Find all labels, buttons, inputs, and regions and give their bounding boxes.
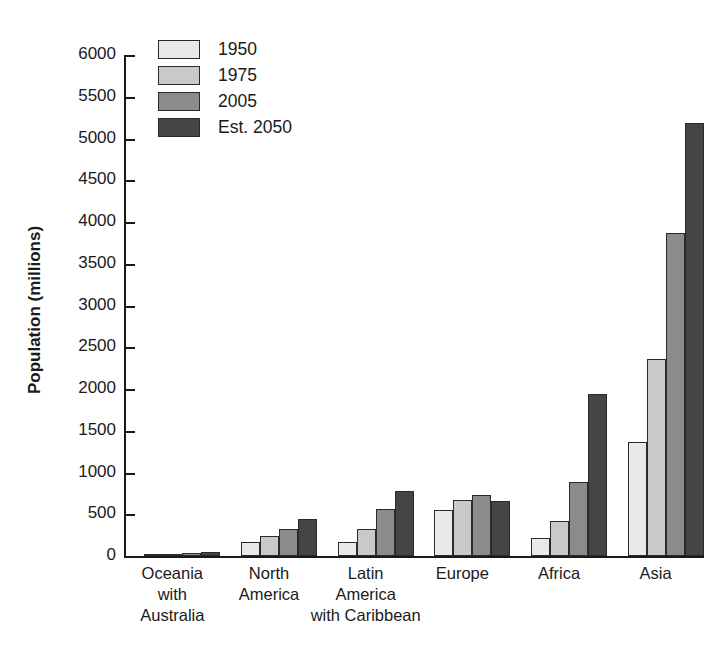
y-tick-mark <box>126 347 135 349</box>
y-tick-mark <box>126 264 135 266</box>
bar <box>395 491 414 556</box>
bar <box>647 359 666 556</box>
x-category-label-line: Australia <box>104 605 241 626</box>
bar-group <box>531 55 607 556</box>
y-tick-label: 0 <box>46 545 116 565</box>
legend-swatch <box>158 118 200 137</box>
bar <box>666 233 685 556</box>
y-tick-mark <box>126 180 135 182</box>
legend-label: 1975 <box>218 65 257 86</box>
legend-item: 1975 <box>158 62 292 88</box>
legend: 195019752005Est. 2050 <box>158 36 292 140</box>
legend-label: 2005 <box>218 91 257 112</box>
bar <box>182 553 201 556</box>
bar <box>531 538 550 556</box>
y-tick-label: 1500 <box>46 420 116 440</box>
x-category-label-line: with Caribbean <box>297 605 434 626</box>
y-tick-mark <box>126 556 135 558</box>
bar <box>241 542 260 556</box>
y-tick-mark <box>126 55 135 57</box>
y-tick-label: 2000 <box>46 378 116 398</box>
y-tick-mark <box>126 139 135 141</box>
bar <box>550 521 569 556</box>
y-tick-label: 3500 <box>46 253 116 273</box>
bar <box>376 509 395 556</box>
legend-item: 1950 <box>158 36 292 62</box>
y-axis-title: Population (millions) <box>25 180 45 440</box>
y-tick-mark <box>126 473 135 475</box>
bar <box>588 394 607 556</box>
y-tick-mark <box>126 306 135 308</box>
bar-group <box>434 55 510 556</box>
y-tick-label: 5000 <box>46 128 116 148</box>
bar <box>453 500 472 556</box>
y-tick-mark <box>126 389 135 391</box>
x-category-label-line: America <box>297 584 434 605</box>
legend-label: 1950 <box>218 39 257 60</box>
legend-item: 2005 <box>158 88 292 114</box>
bar <box>685 123 704 556</box>
legend-swatch <box>158 66 200 85</box>
y-tick-label: 3000 <box>46 295 116 315</box>
population-bar-chart: Population (millions) 050010001500200025… <box>0 0 715 667</box>
bar <box>260 536 279 556</box>
bar <box>338 542 357 556</box>
legend-swatch <box>158 40 200 59</box>
bar <box>279 529 298 556</box>
y-tick-label: 500 <box>46 503 116 523</box>
x-axis-line <box>124 556 704 558</box>
bar <box>163 554 182 556</box>
bar <box>357 529 376 556</box>
bar <box>569 482 588 556</box>
bar-group <box>628 55 704 556</box>
y-tick-mark <box>126 431 135 433</box>
bar <box>491 501 510 556</box>
legend-label: Est. 2050 <box>218 117 292 138</box>
bar <box>298 519 317 556</box>
legend-swatch <box>158 92 200 111</box>
y-tick-mark <box>126 97 135 99</box>
x-category-label-line: Asia <box>587 563 715 584</box>
bar <box>434 510 453 556</box>
bar <box>628 442 647 556</box>
bar <box>201 552 220 556</box>
bar <box>472 495 491 556</box>
y-tick-label: 5500 <box>46 86 116 106</box>
y-tick-label: 4000 <box>46 211 116 231</box>
y-tick-label: 1000 <box>46 462 116 482</box>
y-tick-mark <box>126 222 135 224</box>
bar-group <box>338 55 414 556</box>
y-tick-mark <box>126 514 135 516</box>
bar <box>144 554 163 556</box>
y-tick-label: 4500 <box>46 169 116 189</box>
x-category-label: Asia <box>587 563 715 584</box>
legend-item: Est. 2050 <box>158 114 292 140</box>
y-tick-label: 6000 <box>46 44 116 64</box>
y-tick-label: 2500 <box>46 336 116 356</box>
